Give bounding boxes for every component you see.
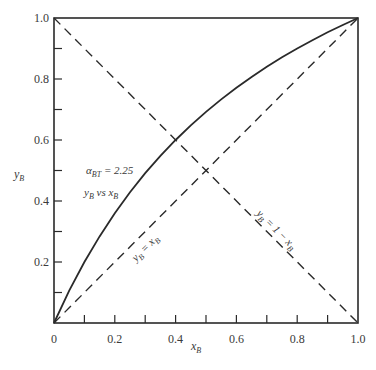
relative-volatility-label: αBT = 2.25: [86, 164, 134, 179]
x-tick-label: 0: [51, 332, 57, 346]
equilibrium-chart: 00.20.40.60.81.00.20.40.60.81.0 xB yB αB…: [0, 0, 376, 370]
x-tick-label: 0.6: [229, 332, 244, 346]
x-tick-label: 1.0: [351, 332, 366, 346]
x-tick-label: 0.8: [290, 332, 305, 346]
y-tick-label: 0.2: [34, 255, 49, 269]
x-tick-label: 0.4: [168, 332, 183, 346]
curve-label: yB vs xB: [83, 186, 118, 201]
x-tick-label: 0.2: [107, 332, 122, 346]
diagonal-line-label: yB = xB: [128, 232, 162, 266]
y-tick-label: 1.0: [34, 11, 49, 25]
y-tick-label: 0.6: [34, 133, 49, 147]
anti-diagonal-line-label: yB = 1 − xB: [252, 206, 299, 253]
tick-labels: 00.20.40.60.81.00.20.40.60.81.0: [34, 11, 366, 346]
y-tick-label: 0.4: [34, 194, 49, 208]
y-axis-title: yB: [13, 167, 24, 183]
y-tick-label: 0.8: [34, 72, 49, 86]
x-axis-title: xB: [190, 339, 201, 355]
